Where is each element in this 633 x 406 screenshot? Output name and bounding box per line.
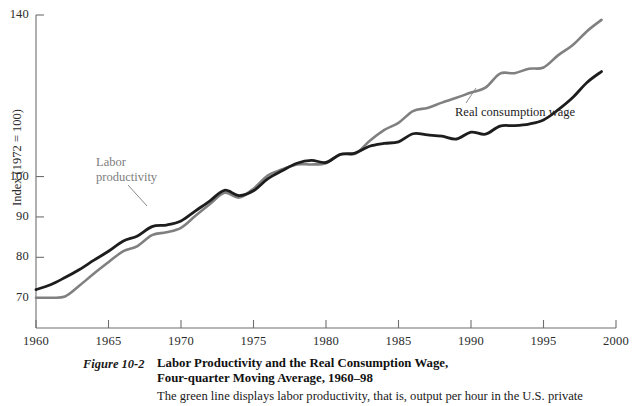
figure-title-line1: Labor Productivity and the Real Consumpt… [157,356,617,371]
chart-plot-area: Index (1972 = 100) 708090100140 19601965… [0,0,624,348]
figure-caption-block: Figure 10-2 Labor Productivity and the R… [0,352,624,406]
figure-body-text: The green line displays labor productivi… [157,389,622,404]
y-axis-tick-label: 80 [0,249,29,264]
x-axis-tick-label: 1960 [13,334,59,349]
chart-svg [0,0,624,348]
annotation-labor-productivity-line1: Labor [96,155,157,170]
y-axis-tick-label: 70 [0,290,29,305]
leader-line-productivity [128,185,147,206]
x-axis-tick-label: 1985 [376,334,422,349]
annotation-labor-productivity: Labor productivity [96,155,157,185]
leader-line-wage [466,88,476,103]
annotation-real-consumption-wage: Real consumption wage [455,105,575,120]
x-axis-tick-label: 1975 [231,334,277,349]
x-axis-tick-label: 1965 [86,334,132,349]
x-axis-tick-label: 1995 [521,334,567,349]
y-axis-tick-label: 140 [0,7,29,22]
x-axis-tick-label: 1980 [303,334,349,349]
x-axis-tick-label: 1970 [158,334,204,349]
figure-title-line2: Four-quarter Moving Average, 1960–98 [157,371,617,386]
y-axis-tick-label: 90 [0,209,29,224]
annotation-leader-lines [128,88,476,206]
y-axis-tick-label: 100 [0,169,29,184]
annotation-labor-productivity-line2: productivity [96,170,157,185]
y-axis-label: Index (1972 = 100) [10,93,25,223]
figure-title: Labor Productivity and the Real Consumpt… [157,356,617,386]
x-axis-tick-label: 2000 [593,334,633,349]
figure-number: Figure 10-2 [83,357,144,372]
x-axis-tick-label: 1990 [448,334,494,349]
